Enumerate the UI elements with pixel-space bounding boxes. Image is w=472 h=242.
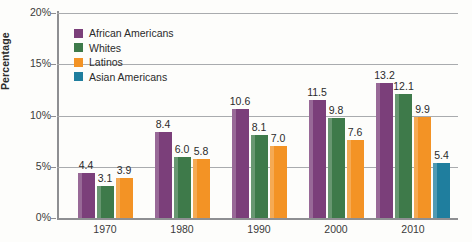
y-tick-label: 0% [17, 211, 51, 223]
bar-highlight [376, 83, 380, 218]
legend-swatch [74, 58, 83, 67]
x-tick-label: 2000 [324, 223, 347, 235]
bar-highlight [251, 135, 255, 218]
bar: 9.8 [328, 118, 345, 218]
bar-group: 11.59.87.6 [309, 13, 364, 218]
y-tick-mark [51, 167, 56, 168]
bar-value-label: 9.8 [329, 104, 344, 116]
bar-value-label: 10.6 [230, 95, 250, 107]
bar-value-label: 11.5 [307, 86, 327, 98]
legend-item: Asian Americans [74, 70, 174, 85]
y-tick-label: 5% [17, 160, 51, 172]
bar-value-label: 8.1 [252, 121, 267, 133]
y-tick-mark [51, 218, 56, 219]
bar-highlight [395, 94, 399, 218]
legend-label: Latinos [89, 56, 123, 68]
bar: 13.2 [376, 83, 393, 218]
y-tick-mark [51, 64, 56, 65]
x-tick-label: 1980 [170, 223, 193, 235]
bar: 8.4 [155, 132, 172, 218]
legend-item: Whites [74, 41, 174, 56]
bar-value-label: 4.4 [79, 159, 94, 171]
bar: 4.4 [78, 173, 95, 218]
legend: African AmericansWhitesLatinosAsian Amer… [74, 26, 174, 84]
bar-value-label: 5.4 [434, 149, 449, 161]
bar: 8.1 [251, 135, 268, 218]
bar-group: 10.68.17.0 [232, 13, 287, 218]
bar-highlight [347, 140, 351, 218]
bar-value-label: 3.9 [117, 164, 132, 176]
bar: 11.5 [309, 100, 326, 218]
y-tick-mark [51, 13, 56, 14]
bar-highlight [414, 117, 418, 218]
bar-value-label: 8.4 [156, 118, 171, 130]
bar: 9.9 [414, 117, 431, 218]
bar-value-label: 9.9 [415, 103, 430, 115]
bar-value-label: 13.2 [374, 69, 394, 81]
legend-swatch [74, 43, 83, 52]
y-tick-label: 15% [17, 57, 51, 69]
bar-highlight [174, 157, 178, 219]
bar-group: 13.212.19.95.4 [376, 13, 450, 218]
legend-label: African Americans [89, 27, 174, 39]
y-axis-title: Percentage [0, 32, 11, 90]
bar-chart: Percentage 0%5%10%15%20% 4.43.13.98.46.0… [0, 0, 472, 242]
bar-highlight [328, 118, 332, 218]
bar: 5.8 [193, 159, 210, 218]
bar: 5.4 [433, 163, 450, 218]
bar: 7.0 [270, 146, 287, 218]
bar-highlight [433, 163, 437, 218]
legend-label: Asian Americans [89, 71, 167, 83]
bar: 3.1 [97, 186, 114, 218]
bar: 7.6 [347, 140, 364, 218]
bar-highlight [270, 146, 274, 218]
bar-value-label: 5.8 [194, 145, 209, 157]
bar-value-label: 7.0 [271, 132, 286, 144]
bar-value-label: 12.1 [393, 80, 413, 92]
bar-highlight [116, 178, 120, 218]
x-tick-label: 2010 [401, 223, 424, 235]
bar: 12.1 [395, 94, 412, 218]
legend-swatch [74, 29, 83, 38]
bar-highlight [155, 132, 159, 218]
y-tick-label: 20% [17, 6, 51, 18]
y-axis: Percentage 0%5%10%15%20% [0, 0, 51, 242]
bar-value-label: 6.0 [175, 143, 190, 155]
bar-highlight [309, 100, 313, 218]
bar-highlight [97, 186, 101, 218]
legend-item: African Americans [74, 26, 174, 41]
bar-value-label: 3.1 [98, 172, 113, 184]
bar-value-label: 7.6 [348, 126, 363, 138]
legend-item: Latinos [74, 55, 174, 70]
x-axis-line [57, 218, 458, 220]
y-tick-label: 10% [17, 109, 51, 121]
x-tick-label: 1990 [247, 223, 270, 235]
bar-highlight [193, 159, 197, 218]
legend-label: Whites [89, 42, 121, 54]
bar: 3.9 [116, 178, 133, 218]
bar-highlight [232, 109, 236, 218]
bar: 6.0 [174, 157, 191, 219]
legend-swatch [74, 72, 83, 81]
x-tick-label: 1970 [93, 223, 116, 235]
y-tick-mark [51, 116, 56, 117]
bar-highlight [78, 173, 82, 218]
bar: 10.6 [232, 109, 249, 218]
